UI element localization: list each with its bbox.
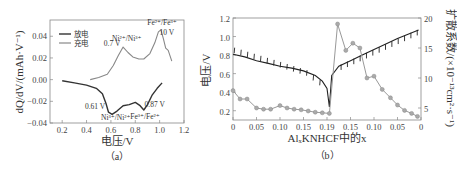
diffusion-marker bbox=[344, 48, 348, 52]
diffusion-marker bbox=[292, 107, 296, 111]
panel-b-frame bbox=[233, 18, 421, 120]
panel-a-annotations: Fe²⁺/Fe³⁺10 VNi²⁺/Ni³⁺0.7 V0.61 VNi³⁺/Ni… bbox=[85, 18, 177, 121]
diffusion-marker bbox=[388, 96, 392, 100]
diffusion-marker bbox=[269, 107, 273, 111]
panel-a-caption: （a） bbox=[105, 151, 129, 162]
y-tick-label: −0.02 bbox=[27, 96, 47, 106]
diffusion-marker bbox=[313, 110, 317, 114]
y-tick-label: 0.02 bbox=[32, 53, 47, 63]
x-tick-label: 0.15 bbox=[296, 122, 311, 132]
y-right-tick-label: 20 bbox=[424, 14, 433, 24]
panel-b-xlabel: AlₓKNHCF中的x bbox=[288, 131, 367, 144]
panel-a-ylabel: dQ/dV/(mAh·V⁻¹) bbox=[13, 30, 26, 113]
x-tick-label: 1.2 bbox=[179, 125, 190, 135]
peak-annotation: Fe³⁺/Fe²⁺ bbox=[130, 112, 160, 121]
x-tick-label: 0.05 bbox=[249, 122, 264, 132]
x-tick-label: 0.10 bbox=[273, 122, 288, 132]
discharge-curve bbox=[62, 81, 162, 115]
y-tick-label: −0.04 bbox=[27, 118, 47, 128]
diffusion-marker bbox=[285, 106, 289, 110]
diffusion-marker bbox=[231, 89, 235, 93]
diffusion-marker bbox=[365, 76, 369, 80]
y-tick-label: 1.0 bbox=[219, 33, 230, 43]
y-right-tick-label: 5 bbox=[424, 104, 428, 114]
panel-a-xlabel: 电压/V bbox=[101, 135, 134, 147]
peak-annotation: 0.7 V bbox=[104, 39, 121, 48]
y-tick-label: 0.04 bbox=[32, 31, 48, 41]
x-tick-label: 0 bbox=[419, 122, 423, 132]
y-tick-label: 1.2 bbox=[219, 14, 230, 24]
diffusion-marker bbox=[372, 74, 376, 78]
x-tick-label: 0.2 bbox=[57, 125, 68, 135]
peak-annotation: Fe²⁺/Fe³⁺ bbox=[147, 18, 177, 27]
x-tick-label: 0.4 bbox=[81, 125, 92, 135]
x-tick-label: 0.10 bbox=[367, 122, 382, 132]
x-tick-label: 0.05 bbox=[390, 122, 405, 132]
diffusion-marker bbox=[327, 111, 331, 115]
x-tick-label: 0.19 bbox=[320, 122, 335, 132]
diffusion-marker bbox=[255, 106, 259, 110]
diffusion-marker bbox=[415, 114, 419, 118]
peak-annotation: 10 V bbox=[160, 28, 175, 37]
panel-b: 00.050.100.150.190.150.100.0500.20.40.60… bbox=[200, 9, 457, 161]
y-tick-label: 0.2 bbox=[219, 107, 230, 117]
panel-b-ticks: 00.050.100.150.190.150.100.0500.20.40.60… bbox=[219, 14, 432, 132]
peak-annotation: 0.61 V bbox=[85, 102, 106, 111]
y-right-tick-label: 10 bbox=[424, 74, 433, 84]
diffusion-marker bbox=[262, 107, 266, 111]
panel-a-legend: 放电 充电 bbox=[59, 29, 89, 48]
peak-annotation: Ni³⁺/Ni²⁺ bbox=[101, 113, 131, 122]
diffusion-marker bbox=[320, 111, 324, 115]
voltage-curve bbox=[233, 30, 419, 107]
panel-b-ylabel-right: 扩散系数/(×10⁻¹³cm²·s⁻¹) bbox=[444, 9, 457, 127]
x-tick-label: 1.0 bbox=[154, 125, 165, 135]
diffusion-marker bbox=[410, 111, 414, 115]
y-right-tick-label: 15 bbox=[424, 44, 433, 54]
diffusion-marker bbox=[380, 87, 384, 91]
legend-label-charge: 充电 bbox=[74, 38, 89, 48]
x-tick-label: 0.15 bbox=[343, 122, 358, 132]
panel-b-caption: （b） bbox=[315, 150, 340, 161]
diffusion-marker bbox=[245, 97, 249, 101]
y-tick-label: 0.4 bbox=[219, 88, 230, 98]
x-tick-label: 0.6 bbox=[106, 125, 117, 135]
diffusion-marker bbox=[403, 108, 407, 112]
panel-b-ylabel-left: 电压/V bbox=[200, 53, 212, 86]
diffusion-marker bbox=[358, 46, 362, 50]
y-tick-label: 0.8 bbox=[219, 51, 230, 61]
diffusion-marker bbox=[278, 104, 282, 108]
diffusion-marker bbox=[396, 103, 400, 107]
x-tick-label: 0 bbox=[231, 122, 235, 132]
panel-a: 0.20.40.60.81.01.2−0.04−0.020.000.020.04… bbox=[13, 18, 189, 162]
diffusion-marker bbox=[336, 22, 340, 26]
x-tick-label: 0.8 bbox=[130, 125, 141, 135]
y-tick-label: 0.00 bbox=[32, 75, 47, 85]
diffusion-marker bbox=[306, 109, 310, 113]
y-tick-label: 0.6 bbox=[219, 70, 230, 80]
peak-annotation: 0.87 V bbox=[145, 100, 166, 109]
diffusion-curve bbox=[233, 24, 418, 116]
panel-b-series bbox=[231, 22, 419, 118]
diffusion-marker bbox=[238, 97, 242, 101]
diffusion-marker bbox=[351, 41, 355, 45]
diffusion-marker bbox=[299, 108, 303, 112]
figure: 0.20.40.60.81.01.2−0.04−0.020.000.020.04… bbox=[0, 0, 457, 170]
legend-label-discharge: 放电 bbox=[74, 29, 89, 39]
